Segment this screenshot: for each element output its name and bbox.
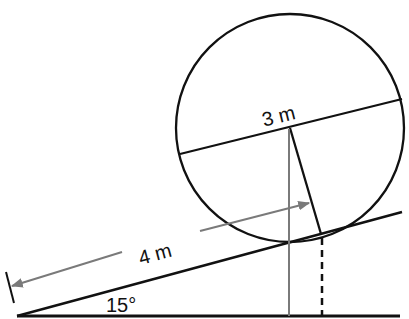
dimension-arrow-right — [200, 203, 309, 231]
incline-cylinder-diagram: 3 m 4 m 15° — [0, 0, 409, 319]
radius-to-contact-line — [290, 128, 321, 234]
dimension-end-tick — [6, 272, 14, 303]
dimension-arrow-left — [12, 252, 122, 286]
distance-label: 4 m — [136, 239, 174, 269]
angle-label: 15° — [106, 294, 136, 316]
